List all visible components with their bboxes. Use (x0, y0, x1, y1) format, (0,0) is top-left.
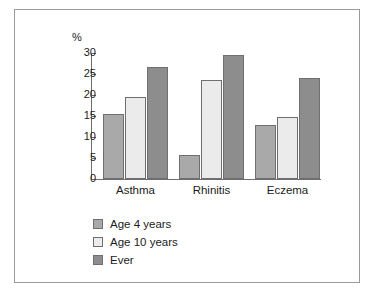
bar-asthma-age-4-years (103, 114, 124, 179)
x-category-label-eczema: Eczema (246, 184, 330, 196)
legend-label: Ever (110, 254, 134, 266)
chart-figure-frame: % 302520151050 AsthmaRhinitisEczema Age … (14, 9, 360, 283)
chart-legend: Age 4 yearsAge 10 yearsEver (93, 215, 273, 269)
legend-label: Age 10 years (110, 236, 178, 248)
bar-rhinitis-ever (223, 55, 244, 179)
bar-eczema-age-4-years (255, 125, 276, 179)
legend-label: Age 4 years (110, 218, 171, 230)
x-category-label-rhinitis: Rhinitis (170, 184, 254, 196)
legend-item-ever: Ever (93, 251, 273, 268)
legend-item-age-4-years: Age 4 years (93, 215, 273, 232)
legend-swatch-icon (93, 237, 103, 247)
x-category-label-asthma: Asthma (94, 184, 178, 196)
bar-asthma-ever (147, 67, 168, 179)
bar-rhinitis-age-4-years (179, 155, 200, 179)
bar-rhinitis-age-10-years (201, 80, 222, 179)
legend-swatch-icon (93, 255, 103, 265)
bar-eczema-age-10-years (277, 117, 298, 179)
bar-asthma-age-10-years (125, 97, 146, 179)
legend-swatch-icon (93, 219, 103, 229)
bar-eczema-ever (299, 78, 320, 179)
legend-item-age-10-years: Age 10 years (93, 233, 273, 250)
